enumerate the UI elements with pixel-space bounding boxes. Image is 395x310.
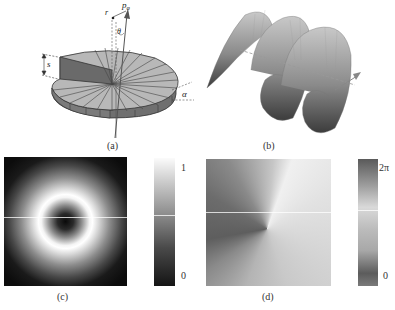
panel-d-phase-map	[206, 159, 331, 286]
panel-d-colorbar	[358, 159, 378, 286]
label-r: r	[105, 8, 109, 17]
panel-d-artifact-line	[206, 212, 331, 213]
label-p-phi: pφ	[121, 0, 131, 11]
panel-b-helical-wavefront	[195, 0, 395, 150]
panel-c-label: (c)	[57, 291, 68, 302]
panel-a-label: (a)	[107, 140, 118, 151]
panel-d-colorbar-max-label: 2π	[379, 162, 389, 173]
label-alpha: α	[182, 89, 187, 99]
panel-c-intensity-map	[4, 157, 127, 286]
panel-b-label: (b)	[263, 140, 275, 151]
panel-c-artifact-line	[4, 217, 127, 218]
panel-c-colorbar	[154, 158, 175, 286]
panel-d-colorbar-artifact-line	[358, 210, 378, 211]
panel-d-colorbar-min-label: 0	[383, 270, 388, 281]
panel-c-colorbar-max-label: 1	[181, 162, 186, 173]
panel-c-colorbar-min-label: 0	[181, 270, 186, 281]
panel-c-colorbar-artifact-line	[154, 215, 175, 216]
panel-a-spiral-phase-plate: s α r pφ θ	[0, 0, 200, 150]
panel-d-label: (d)	[262, 291, 274, 302]
label-theta: θ	[117, 27, 121, 36]
label-s: s	[47, 59, 51, 69]
